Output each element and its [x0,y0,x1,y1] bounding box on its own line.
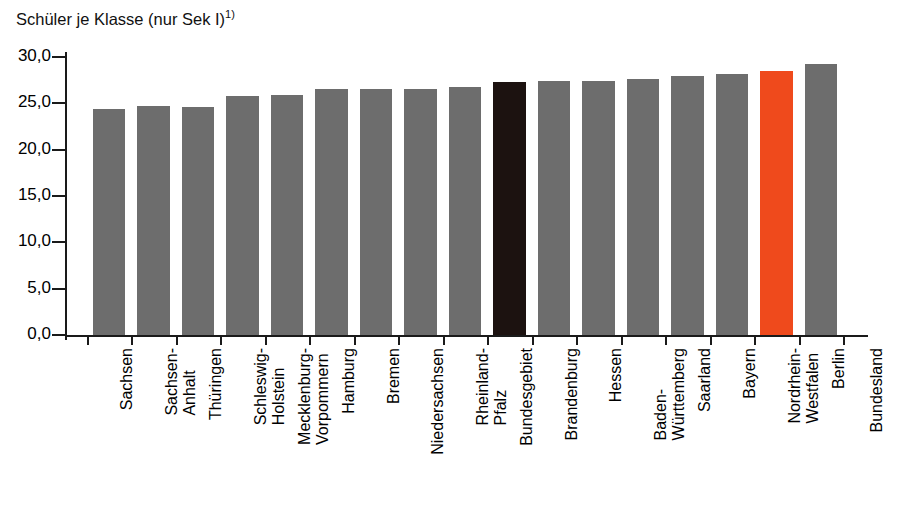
x-axis-label-line: Rheinland- [474,348,491,425]
y-axis-tick-label: 10,0 [18,231,51,251]
x-axis-tick-mark [176,337,178,345]
x-axis-tick-mark [354,337,356,345]
chart-title: Schüler je Klasse (nur Sek I)1) [16,4,235,29]
x-axis-tick-mark [265,337,267,345]
y-axis-tick-label: 0,0 [27,324,51,344]
bar [226,96,258,335]
bar [93,109,125,335]
bar [582,81,614,335]
y-axis-tick-mark [52,241,65,243]
x-axis-tick-mark [532,337,534,345]
bar [671,76,703,335]
x-axis-tick-mark [754,337,756,345]
bar [182,107,214,335]
x-axis-label-line: Berlin [830,348,847,389]
x-axis-label-line: Hamburg [340,348,357,414]
x-axis-tick-mark [843,337,845,345]
y-axis-tick-label: 20,0 [18,139,51,159]
bar [538,81,570,335]
bar-series [65,57,868,335]
x-axis-tick-mark [220,337,222,345]
x-axis-label-line: Baden- [652,389,669,441]
bar [716,74,748,335]
x-axis-tick-mark [398,337,400,345]
bar [404,89,436,335]
x-axis-label-line: Württemberg [670,348,688,440]
x-axis-tick-mark [799,337,801,345]
x-axis-label-line: Brandenburg [563,348,580,441]
x-axis-title: Bundesland [868,348,905,433]
y-axis-tick-label: 5,0 [27,278,51,298]
y-axis-tick-label: 30,0 [18,46,51,66]
bar [360,89,392,335]
chart-title-text: Schüler je Klasse (nur Sek I) [16,10,225,28]
x-axis-tick-mark [131,337,133,345]
bar [449,87,481,335]
x-axis-label-line: Niedersachsen [429,348,446,455]
x-axis-label-line: Sachsen- [163,348,180,416]
y-axis-tick-label: 15,0 [18,185,51,205]
x-axis-labels: SachsenSachsen-AnhaltThüringenSchleswig-… [65,348,905,512]
chart-title-footnote-marker: 1) [225,8,235,20]
x-axis-tick-mark [487,337,489,345]
y-axis-tick-mark [52,56,65,58]
x-axis-tick-mark [665,337,667,345]
x-axis-label-line: Holstein [269,348,287,425]
x-axis-tick-mark [710,337,712,345]
y-axis-tick-mark [52,149,65,151]
x-axis-label-line: Bundesgebiet [518,348,535,446]
bar [271,95,303,335]
x-axis-tick-mark [309,337,311,345]
y-axis-tick-mark [52,288,65,290]
x-axis-label-line: Thüringen [207,348,224,420]
y-axis-tick-mark [52,195,65,197]
x-axis-tick-mark [621,337,623,345]
x-axis-label-line: Westfalen [803,348,821,424]
y-axis-tick-label: 25,0 [18,92,51,112]
bar [493,82,525,335]
x-axis-tick-mark [576,337,578,345]
bar [315,89,347,335]
bar [137,106,169,335]
bar [760,71,792,335]
bar [627,79,659,335]
x-axis-tick-mark [443,337,445,345]
y-axis-tick-mark [52,102,65,104]
x-axis-label-line: Vorpommern [314,348,332,445]
x-axis-label-line: Saarland [696,348,713,412]
x-axis-label-line: Sachsen [118,348,135,410]
x-axis-label-line: Bayern [741,348,758,399]
bar [805,64,837,336]
y-axis-tick-mark [52,334,65,336]
x-axis-label-line: Hessen [607,348,624,402]
x-axis-label-line: Anhalt [180,348,198,416]
x-axis-label-line: Nordrhein- [786,348,803,424]
x-axis-ticks [65,337,868,346]
x-axis-label-line: Mecklenburg- [296,348,313,445]
chart-figure: Schüler je Klasse (nur Sek I)1) 30,025,0… [0,0,905,512]
x-axis-label-line: Bremen [385,348,402,404]
x-axis-label-line: Schleswig- [252,348,269,425]
x-axis-label-line: Pfalz [492,348,510,425]
x-axis-tick-mark [87,337,89,345]
